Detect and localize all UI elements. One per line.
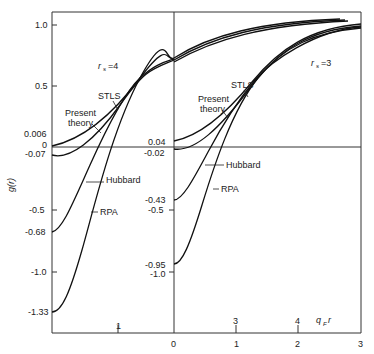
label-hubbard-rs4: Hubbard	[106, 175, 141, 185]
label-hubbard-rs3: Hubbard	[226, 160, 261, 170]
annot-neg0.43: -0.43	[145, 195, 166, 205]
xtick-bottom-1: 1	[234, 339, 239, 349]
label-present-rs4-2: theory	[68, 118, 94, 128]
xtick-left-1: 1	[116, 321, 121, 331]
label-rpa-rs4: RPA	[100, 207, 118, 217]
rs3-label: r s =3	[311, 58, 331, 69]
label-present-rs4-1: Present	[65, 108, 97, 118]
curves-rs3	[174, 19, 361, 264]
svg-text:=4: =4	[108, 61, 118, 71]
annot-neg1.33: -1.33	[28, 307, 49, 317]
ytick-1.0: 1.0	[35, 20, 48, 30]
curve-rs3-stls	[174, 24, 361, 141]
label-rpa-rs3: RPA	[221, 184, 239, 194]
mtick-neg1.0: -1.0	[150, 269, 166, 279]
svg-text:r: r	[98, 61, 102, 71]
xtick-bottom-2: 2	[295, 339, 300, 349]
annot-0.04: 0.04	[148, 137, 166, 147]
svg-text:s: s	[316, 63, 319, 69]
svg-text:r: r	[328, 315, 332, 325]
x-axis-label: q F r	[316, 315, 332, 327]
label-present-rs3-2: theory	[200, 104, 226, 114]
svg-text:F: F	[323, 321, 327, 327]
ytick-neg1.0: -1.0	[31, 267, 47, 277]
annot-neg0.68: -0.68	[25, 227, 46, 237]
annot-neg0.07: -0.07	[25, 149, 46, 159]
xtick-top-4: 4	[295, 316, 300, 326]
ytick-neg0.5: -0.5	[29, 205, 45, 215]
svg-text:=3: =3	[321, 58, 331, 68]
xtick-top-3: 3	[233, 316, 238, 326]
rs4-label: r s =4	[98, 61, 118, 72]
pair-correlation-chart: 1.0 0.5 0.006 0 -0.07 -0.5 -0.68 -1.0 -1…	[0, 0, 374, 354]
label-stls-rs3: STLS	[231, 80, 254, 90]
svg-text:r: r	[311, 58, 315, 68]
svg-text:q: q	[316, 315, 321, 325]
y-axis-label: g(r)	[6, 178, 16, 192]
xtick-bottom-3: 3	[358, 339, 363, 349]
curve-rs4-upper-2	[174, 20, 345, 60]
curve-rs3-present	[174, 26, 361, 149]
curve-rs3-rpa	[174, 28, 361, 264]
annot-neg0.02: -0.02	[144, 148, 165, 158]
mtick-neg0.5: -0.5	[148, 205, 164, 215]
ytick-0.5: 0.5	[35, 81, 48, 91]
annot-0.006: 0.006	[24, 129, 47, 139]
x-ticks	[118, 325, 298, 333]
label-stls-rs4: STLS	[98, 91, 121, 101]
xtick-bottom-0: 0	[171, 339, 176, 349]
svg-text:s: s	[103, 66, 106, 72]
label-present-rs3-1: Present	[198, 94, 230, 104]
